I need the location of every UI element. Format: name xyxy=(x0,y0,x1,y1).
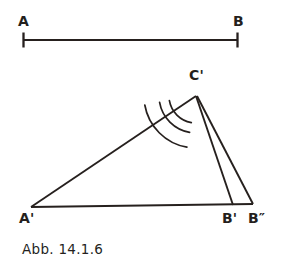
label-point-b-prime: B' xyxy=(222,211,237,225)
figure-caption: Abb. 14.1.6 xyxy=(22,243,103,257)
side-a-prime-c-prime xyxy=(31,96,196,207)
reference-segment-group xyxy=(23,33,238,48)
label-point-a: A xyxy=(18,14,29,28)
figure-container: A B C' A' B' B″ Abb. 14.1.6 xyxy=(0,0,285,272)
angle-arc-group xyxy=(145,101,192,148)
side-a-prime-b-double-prime xyxy=(31,204,253,207)
label-point-b: B xyxy=(233,14,244,28)
ray-c-prime-b-double-prime xyxy=(197,96,253,204)
triangle-group xyxy=(31,96,253,207)
geometry-drawing xyxy=(0,0,285,272)
label-point-a-prime: A' xyxy=(19,211,35,225)
label-point-b-double-prime: B″ xyxy=(248,211,265,225)
side-c-prime-b-prime xyxy=(196,96,233,205)
label-point-c-prime: C' xyxy=(189,68,204,82)
